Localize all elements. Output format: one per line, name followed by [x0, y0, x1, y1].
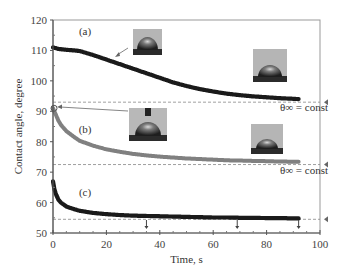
- arrowhead-icon: [115, 52, 120, 57]
- down-arrowhead-icon: [144, 226, 148, 229]
- contact-angle-chart: 5060708090100110120020406080100Time, sCo…: [0, 0, 346, 278]
- chart-annotation: (a): [79, 25, 92, 38]
- chart-annotation: θ∞ = const: [280, 164, 328, 176]
- x-axis-title: Time, s: [170, 253, 203, 265]
- chart-annotation: θ∞ = const: [280, 101, 328, 113]
- x-tick-label: 100: [312, 238, 329, 250]
- y-tick-label: 50: [36, 227, 48, 239]
- y-tick-label: 70: [36, 166, 48, 178]
- down-arrowhead-icon: [235, 226, 239, 229]
- y-tick-label: 100: [31, 75, 48, 87]
- pointer-arrow-b: [60, 107, 128, 111]
- chart-annotation: (b): [79, 123, 92, 136]
- arrowhead-icon: [57, 105, 62, 110]
- y-axis-title: Contact angle, degree: [12, 79, 24, 175]
- droplet-inset-b-start: [129, 108, 167, 141]
- y-tick-label: 90: [36, 105, 48, 117]
- x-tick-label: 60: [208, 238, 220, 250]
- x-tick-label: 40: [154, 238, 166, 250]
- x-tick-label: 80: [261, 238, 273, 250]
- droplet-inset-a-end: [253, 49, 287, 82]
- droplet-inset-a-start: [133, 29, 162, 55]
- x-tick-label: 0: [50, 238, 56, 250]
- droplet-inset-b-end: [251, 124, 283, 154]
- chart-annotation: (c): [79, 186, 92, 199]
- down-arrowhead-icon: [297, 226, 301, 229]
- y-tick-label: 120: [31, 14, 48, 26]
- y-tick-label: 80: [36, 136, 48, 148]
- y-tick-label: 110: [31, 44, 48, 56]
- right-marker-triangle-icon: [324, 216, 328, 222]
- y-tick-label: 60: [36, 197, 48, 209]
- x-tick-label: 20: [101, 238, 113, 250]
